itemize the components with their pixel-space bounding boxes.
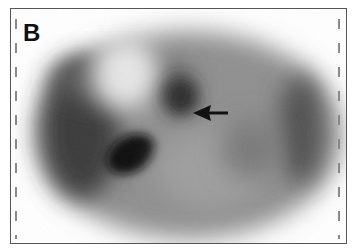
scan-image [11, 9, 347, 244]
figure-frame: B [10, 8, 347, 244]
panel-label: B [23, 19, 40, 47]
